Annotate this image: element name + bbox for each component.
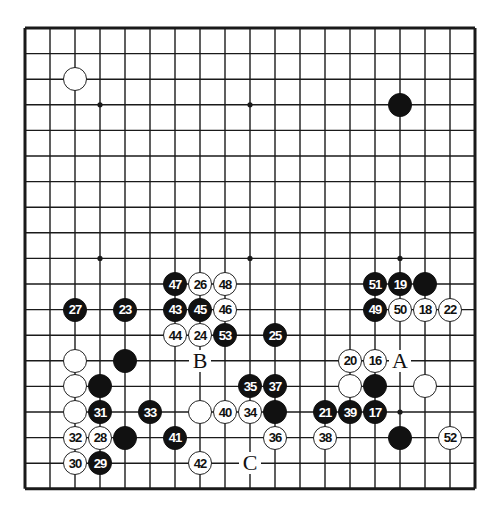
black-stone: 47	[163, 272, 187, 296]
star-point	[97, 256, 102, 261]
white-stone	[63, 400, 87, 424]
white-stone: 46	[213, 298, 237, 322]
black-stone: 17	[363, 400, 387, 424]
black-stone: 41	[163, 426, 187, 450]
star-point	[247, 256, 252, 261]
black-stone: 51	[363, 272, 387, 296]
white-stone: 30	[63, 451, 87, 475]
black-stone: 53	[213, 323, 237, 347]
black-stone: 19	[388, 272, 412, 296]
black-stone: 27	[63, 298, 87, 322]
black-stone: 49	[363, 298, 387, 322]
star-point	[247, 102, 252, 107]
white-stone: 34	[238, 400, 262, 424]
white-stone: 20	[338, 349, 362, 373]
black-stone: 33	[138, 400, 162, 424]
point-label-c: C	[239, 452, 261, 474]
white-stone: 44	[163, 323, 187, 347]
black-stone	[388, 426, 412, 450]
white-stone: 52	[438, 426, 462, 450]
black-stone	[113, 426, 137, 450]
white-stone: 38	[313, 426, 337, 450]
white-stone: 32	[63, 426, 87, 450]
white-stone	[63, 67, 87, 91]
star-point	[97, 102, 102, 107]
white-stone: 18	[413, 298, 437, 322]
white-stone: 16	[363, 349, 387, 373]
black-stone: 43	[163, 298, 187, 322]
point-label-b: B	[189, 350, 211, 372]
black-stone	[388, 93, 412, 117]
black-stone	[413, 272, 437, 296]
white-stone: 24	[188, 323, 212, 347]
black-stone: 31	[88, 400, 112, 424]
white-stone: 22	[438, 298, 462, 322]
white-stone: 48	[213, 272, 237, 296]
black-stone: 29	[88, 451, 112, 475]
black-stone	[263, 400, 287, 424]
star-point	[397, 256, 402, 261]
point-label-a: A	[389, 350, 411, 372]
black-stone	[113, 349, 137, 373]
white-stone	[63, 349, 87, 373]
black-stone: 25	[263, 323, 287, 347]
black-stone: 23	[113, 298, 137, 322]
star-point	[397, 409, 402, 414]
white-stone: 42	[188, 451, 212, 475]
black-stone: 21	[313, 400, 337, 424]
black-stone: 45	[188, 298, 212, 322]
white-stone: 28	[88, 426, 112, 450]
white-stone: 36	[263, 426, 287, 450]
white-stone: 40	[213, 400, 237, 424]
white-stone: 26	[188, 272, 212, 296]
black-stone: 39	[338, 400, 362, 424]
white-stone: 50	[388, 298, 412, 322]
white-stone	[188, 400, 212, 424]
